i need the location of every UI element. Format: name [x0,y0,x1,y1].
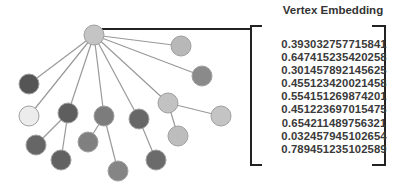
graph-node [108,161,128,181]
graph-node [26,135,46,155]
graph-node [146,150,166,170]
graph-edge [94,35,104,116]
graph-edge [94,35,168,103]
graph-node [158,93,178,113]
graph-node [192,66,212,86]
root-vertex-node [84,25,104,45]
vertex-embedding-title: Vertex Embedding [268,4,398,16]
graph-edge [68,35,94,113]
graph-node [78,132,98,152]
embedding-value: 0.554151269874201 [264,90,404,103]
graph-node [211,106,231,126]
embedding-value: 0.393032757715841 [264,38,404,51]
graph-node [94,106,114,126]
graph-node [19,106,39,126]
graph-node [171,36,191,56]
graph-edge [29,35,94,116]
embedding-value: 0.032457945102654 [264,130,404,143]
graph-node [129,109,149,129]
graph-node [19,74,39,94]
graph-node [58,103,78,123]
embedding-value: 0.789451235102589 [264,143,404,156]
graph-node [51,150,71,170]
embedding-vector: 0.393032757715841 0.647415235420258 0.30… [264,38,404,156]
embedding-value: 0.451223697015475 [264,103,404,116]
embedding-value: 0.647415235420258 [264,51,404,64]
graph-nodes [19,25,231,181]
embedding-value: 0.654211489756321 [264,117,404,130]
left-bracket [251,26,262,165]
embedding-value: 0.301457892145625 [264,64,404,77]
embedding-value: 0.455123420021458 [264,77,404,90]
graph-node [168,126,188,146]
graph-edge [29,35,94,84]
